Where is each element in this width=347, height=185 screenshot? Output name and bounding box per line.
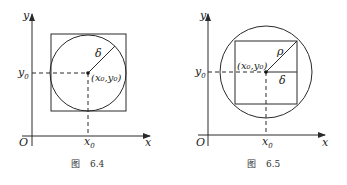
x0-label: x0	[262, 135, 273, 150]
y0-label: y0	[194, 65, 206, 80]
y-axis-label: y	[22, 9, 30, 22]
x0-label: x0	[84, 135, 95, 150]
figure-6-5: y x O x0 y0 (x₀,y₀) ρ δ 图 6.5	[194, 9, 329, 169]
origin-label: O	[196, 136, 205, 149]
center-label: (x₀,y₀)	[237, 60, 267, 71]
y0-label: y0	[17, 66, 29, 81]
figures-canvas: y x O x0 y0 (x₀,y₀) δ 图 6.4 y x O x0 y0 …	[0, 0, 347, 185]
x-axis-label: x	[322, 136, 329, 149]
radius-label: δ	[95, 47, 102, 60]
figure-6-4: y x O x0 y0 (x₀,y₀) δ 图 6.4	[17, 9, 152, 169]
center-label: (x₀,y₀)	[91, 72, 121, 83]
y-axis-label: y	[199, 9, 207, 22]
caption-prefix: 图	[247, 159, 256, 169]
caption-number: 6.4	[90, 159, 105, 169]
x-axis-label: x	[145, 136, 152, 149]
center-point	[86, 71, 90, 75]
caption-prefix: 图	[71, 159, 80, 169]
rho-label: ρ	[276, 45, 284, 58]
delta-label: δ	[279, 74, 286, 87]
origin-label: O	[19, 136, 28, 149]
caption-number: 6.5	[266, 159, 281, 169]
